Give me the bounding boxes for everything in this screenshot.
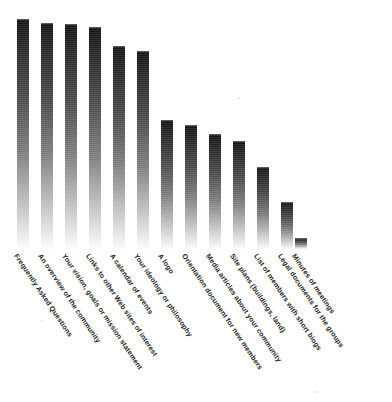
bar-top-edge <box>89 27 101 28</box>
bar-top-edge <box>113 46 125 47</box>
category-label: A calendar of events <box>108 253 154 316</box>
bar-top-edge <box>65 24 77 25</box>
bar-fill <box>17 19 29 249</box>
bar-fill <box>65 24 77 249</box>
bar-texture <box>89 27 101 249</box>
bar-texture <box>113 46 125 249</box>
bar-fill <box>137 51 149 249</box>
bar <box>161 120 173 249</box>
bar-texture <box>17 19 29 249</box>
bar-texture <box>281 202 293 249</box>
bar-fill <box>257 167 269 249</box>
bar-fill <box>281 202 293 249</box>
bar-chart: Frequently Asked QuestionsAn overview of… <box>0 0 392 402</box>
bar <box>17 19 29 249</box>
bar-top-edge <box>185 125 197 126</box>
bar-top-edge <box>161 120 173 121</box>
bar <box>257 167 269 249</box>
bar-top-edge <box>17 19 29 20</box>
bar-top-edge <box>209 134 221 135</box>
bar-texture <box>41 23 53 249</box>
bar-texture <box>233 141 245 249</box>
bar <box>41 23 53 249</box>
bar <box>233 141 245 249</box>
bar <box>281 202 293 249</box>
bar-texture <box>65 24 77 249</box>
bar <box>113 46 125 249</box>
bar <box>89 27 101 249</box>
bar-fill <box>233 141 245 249</box>
bar-fill <box>161 120 173 249</box>
bar-fill <box>209 134 221 249</box>
bar-top-edge <box>281 202 293 203</box>
bar-texture <box>185 125 197 249</box>
bar-texture <box>209 134 221 249</box>
bar-top-edge <box>257 167 269 168</box>
bar-top-edge <box>233 141 245 142</box>
bar-texture <box>257 167 269 249</box>
bar <box>137 51 149 249</box>
bar-top-edge <box>137 51 149 52</box>
bar <box>65 24 77 249</box>
bar-texture <box>161 120 173 249</box>
bar-fill <box>41 23 53 249</box>
bar-top-edge <box>295 238 307 239</box>
bar-top-edge <box>41 23 53 24</box>
bar <box>209 134 221 249</box>
bar-fill <box>185 125 197 249</box>
bar-fill <box>89 27 101 249</box>
category-label: A logo <box>156 253 174 276</box>
bar-fill <box>113 46 125 249</box>
bar-texture <box>137 51 149 249</box>
category-axis-labels: Frequently Asked QuestionsAn overview of… <box>0 248 392 402</box>
plot-area <box>0 0 392 250</box>
bar <box>185 125 197 249</box>
